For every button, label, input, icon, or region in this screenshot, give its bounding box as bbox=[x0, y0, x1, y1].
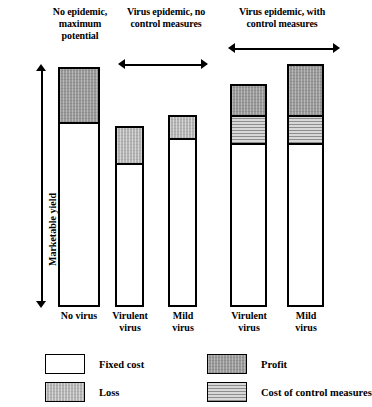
group-header-line: control measures bbox=[120, 18, 212, 30]
group-header-line: Virus epidemic, with bbox=[218, 6, 346, 18]
bar-segment-fixed-cost bbox=[289, 145, 322, 305]
group-header-line: maximum bbox=[42, 18, 118, 30]
group-header-line: control measures bbox=[218, 18, 346, 30]
tick-label-line: Virulent bbox=[217, 310, 281, 322]
tick-label-virulent-virus-2: Virulent virus bbox=[217, 310, 281, 334]
bar-virulent-virus-no-control bbox=[115, 126, 144, 307]
group-header-epidemic-no-control: Virus epidemic, no control measures bbox=[120, 6, 212, 30]
bar-mild-virus-with-control bbox=[287, 64, 324, 307]
group-header-line: No epidemic, bbox=[42, 6, 118, 18]
bar-segment-fixed-cost bbox=[232, 145, 265, 305]
tick-label-line: virus bbox=[274, 322, 338, 334]
group-header-line: potential bbox=[42, 30, 118, 42]
bar-segment-profit bbox=[60, 69, 98, 124]
legend-swatch-profit bbox=[207, 354, 247, 374]
legend-label-fixed-cost: Fixed cost bbox=[99, 359, 144, 370]
y-axis: Marketable yield bbox=[36, 64, 47, 308]
chart-legend: Fixed cost Loss Profit Cost of control m… bbox=[0, 352, 353, 407]
group-header-line: Virus epidemic, no bbox=[120, 6, 212, 18]
legend-swatch-control-cost bbox=[207, 382, 247, 402]
bar-segment-fixed-cost bbox=[117, 165, 142, 305]
arrow-head-right-icon bbox=[333, 43, 340, 53]
bar-segment-profit bbox=[289, 66, 322, 117]
tick-label-mild-virus-2: Mild virus bbox=[274, 310, 338, 334]
legend-swatch-fixed-cost bbox=[45, 354, 85, 374]
group-span-arrow-no-control bbox=[118, 59, 208, 70]
group-span-arrow-with-control bbox=[228, 43, 340, 54]
y-axis-line bbox=[41, 70, 43, 302]
bar-segment-fixed-cost bbox=[170, 140, 195, 305]
bar-segment-loss bbox=[117, 128, 142, 165]
tick-label-line: virus bbox=[217, 322, 281, 334]
bar-segment-fixed-cost bbox=[60, 124, 98, 305]
arrow-line bbox=[123, 64, 203, 66]
legend-label-profit: Profit bbox=[261, 359, 287, 370]
bar-segment-loss bbox=[170, 117, 195, 140]
group-header-no-epidemic: No epidemic, maximum potential bbox=[42, 6, 118, 42]
bar-no-virus bbox=[58, 67, 100, 307]
y-axis-label: Marketable yield bbox=[47, 170, 58, 290]
legend-label-control-cost: Cost of control measures bbox=[261, 387, 372, 398]
legend-item-fixed-cost: Fixed cost bbox=[45, 354, 144, 374]
arrow-head-down-icon bbox=[36, 301, 46, 308]
legend-item-loss: Loss bbox=[45, 382, 119, 402]
tick-label-line: virus bbox=[151, 322, 215, 334]
bar-virulent-virus-with-control bbox=[230, 84, 267, 307]
bar-segment-profit bbox=[232, 86, 265, 117]
bar-segment-control-cost bbox=[232, 117, 265, 145]
legend-item-profit: Profit bbox=[207, 354, 287, 374]
bar-segment-control-cost bbox=[289, 117, 322, 145]
tick-label-mild-virus-1: Mild virus bbox=[151, 310, 215, 334]
legend-swatch-loss bbox=[45, 382, 85, 402]
arrow-head-right-icon bbox=[201, 59, 208, 69]
group-header-epidemic-with-control: Virus epidemic, with control measures bbox=[218, 6, 346, 30]
arrow-line bbox=[233, 48, 335, 50]
tick-label-line: Mild bbox=[151, 310, 215, 322]
legend-item-control-cost: Cost of control measures bbox=[207, 382, 372, 402]
bar-mild-virus-no-control bbox=[168, 115, 197, 307]
tick-label-line: Mild bbox=[274, 310, 338, 322]
legend-label-loss: Loss bbox=[99, 387, 119, 398]
